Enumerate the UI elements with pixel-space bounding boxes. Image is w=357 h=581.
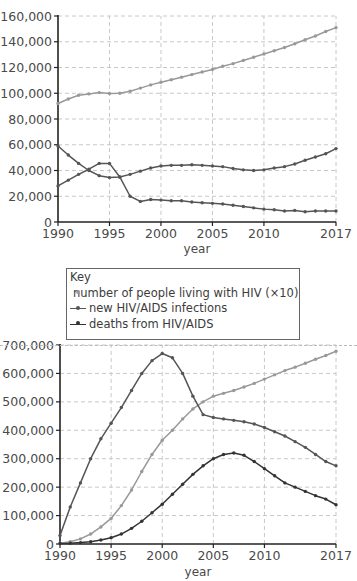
- x-axis-label: year: [185, 565, 212, 579]
- data-point-marker: [99, 437, 102, 440]
- data-point-marker: [109, 517, 112, 520]
- data-point-marker: [304, 361, 307, 364]
- data-point-marker: [149, 198, 152, 201]
- data-point-marker: [140, 372, 143, 375]
- data-point-marker: [130, 389, 133, 392]
- data-point-marker: [159, 81, 162, 84]
- data-point-marker: [77, 93, 80, 96]
- data-point-marker: [79, 541, 82, 544]
- data-point-marker: [222, 453, 225, 456]
- data-point-marker: [334, 464, 337, 467]
- data-point-marker: [190, 73, 193, 76]
- data-point-marker: [314, 453, 317, 456]
- data-point-marker: [58, 542, 61, 545]
- data-point-marker: [232, 451, 235, 454]
- data-point-marker: [99, 525, 102, 528]
- x-tick-label: 1995: [95, 548, 127, 563]
- data-point-marker: [180, 164, 183, 167]
- x-tick-label: 1995: [94, 226, 126, 241]
- data-point-marker: [190, 200, 193, 203]
- data-point-marker: [263, 377, 266, 380]
- data-point-marker: [56, 184, 59, 187]
- data-point-marker: [200, 201, 203, 204]
- data-point-marker: [201, 413, 204, 416]
- data-point-marker: [201, 464, 204, 467]
- data-point-marker: [324, 497, 327, 500]
- series-line: [56, 144, 337, 179]
- data-point-marker: [283, 209, 286, 212]
- data-point-marker: [161, 352, 164, 355]
- data-point-marker: [273, 373, 276, 376]
- data-point-marker: [159, 164, 162, 167]
- data-point-marker: [77, 173, 80, 176]
- data-point-marker: [262, 168, 265, 171]
- data-point-marker: [304, 490, 307, 493]
- data-point-marker: [89, 532, 92, 535]
- x-tick-label: 1990: [42, 226, 74, 241]
- data-point-marker: [161, 439, 164, 442]
- data-point-marker: [79, 537, 82, 540]
- series-line: [56, 162, 337, 214]
- legend-item-infections: new HIV/AIDS infections: [70, 301, 296, 317]
- data-point-marker: [87, 169, 90, 172]
- data-point-marker: [97, 91, 100, 94]
- data-point-marker: [191, 407, 194, 410]
- legend-key: Key number of people living with HIV (×1…: [66, 268, 300, 340]
- y-tick-label: 400,000: [2, 423, 54, 438]
- data-point-marker: [118, 175, 121, 178]
- data-point-marker: [283, 46, 286, 49]
- legend-title: Key: [70, 270, 296, 286]
- data-point-marker: [118, 92, 121, 95]
- data-point-marker: [181, 483, 184, 486]
- data-point-marker: [212, 394, 215, 397]
- data-point-marker: [324, 152, 327, 155]
- data-point-marker: [67, 153, 70, 156]
- data-point-marker: [242, 420, 245, 423]
- data-point-marker: [293, 365, 296, 368]
- data-point-marker: [242, 454, 245, 457]
- data-point-marker: [139, 169, 142, 172]
- data-point-marker: [201, 400, 204, 403]
- x-tick-label: 2005: [197, 548, 229, 563]
- series-line: [56, 26, 337, 105]
- data-point-marker: [324, 460, 327, 463]
- data-point-marker: [181, 372, 184, 375]
- data-point-marker: [252, 56, 255, 59]
- data-point-marker: [263, 426, 266, 429]
- legend-item-deaths: deaths from HIV/AIDS: [70, 317, 296, 333]
- x-tick-label: 2000: [145, 226, 177, 241]
- data-point-marker: [231, 62, 234, 65]
- data-point-marker: [253, 460, 256, 463]
- data-point-marker: [253, 422, 256, 425]
- data-point-marker: [211, 164, 214, 167]
- data-point-marker: [109, 421, 112, 424]
- y-tick-label: 80,000: [8, 112, 52, 127]
- x-tick-label: 1990: [44, 548, 76, 563]
- data-point-marker: [221, 65, 224, 68]
- data-point-marker: [253, 382, 256, 385]
- data-point-marker: [191, 473, 194, 476]
- data-point-marker: [231, 204, 234, 207]
- legend-swatch-icon: [70, 324, 86, 325]
- data-point-marker: [252, 169, 255, 172]
- x-tick-label: 2000: [146, 548, 178, 563]
- data-point-marker: [128, 90, 131, 93]
- data-point-marker: [232, 419, 235, 422]
- data-point-marker: [191, 394, 194, 397]
- data-point-marker: [314, 358, 317, 361]
- data-point-marker: [211, 68, 214, 71]
- data-point-marker: [334, 209, 337, 212]
- series-line: [58, 451, 337, 545]
- data-point-marker: [128, 195, 131, 198]
- data-point-marker: [283, 165, 286, 168]
- data-point-marker: [293, 209, 296, 212]
- data-point-marker: [140, 520, 143, 523]
- series-line: [58, 352, 337, 537]
- data-point-marker: [324, 30, 327, 33]
- y-tick-label: 140,000: [0, 34, 52, 49]
- data-point-marker: [130, 527, 133, 530]
- data-point-marker: [69, 505, 72, 508]
- data-point-marker: [242, 59, 245, 62]
- data-point-marker: [334, 503, 337, 506]
- data-point-marker: [314, 155, 317, 158]
